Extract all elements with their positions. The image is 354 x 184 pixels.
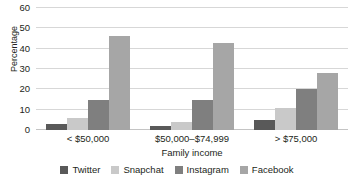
legend-label: Facebook	[252, 164, 294, 175]
bar-snapchat[interactable]	[171, 122, 192, 130]
bar-chart: Percentage 0102030405060 < $50,000$50,00…	[0, 0, 354, 184]
bar-snapchat[interactable]	[275, 108, 296, 130]
legend-swatch-icon	[111, 166, 119, 174]
legend-item-snapchat[interactable]: Snapchat	[111, 164, 163, 175]
legend-label: Instagram	[187, 164, 229, 175]
legend-swatch-icon	[240, 166, 248, 174]
bar-facebook[interactable]	[109, 36, 130, 130]
x-axis-category: $50,000–$74,999	[140, 133, 244, 144]
y-axis-tick: 50	[19, 24, 30, 34]
legend-label: Twitter	[72, 164, 100, 175]
bar-facebook[interactable]	[317, 73, 338, 130]
chart-legend: TwitterSnapchatInstagramFacebook	[0, 164, 354, 175]
x-axis-category-labels: < $50,000$50,000–$74,999> $75,000	[36, 133, 348, 144]
y-axis-tick: 60	[19, 3, 30, 13]
y-axis-tick: 30	[19, 64, 30, 74]
bar-twitter[interactable]	[46, 124, 67, 130]
bar-instagram[interactable]	[192, 100, 213, 131]
bar-snapchat[interactable]	[67, 118, 88, 130]
legend-item-facebook[interactable]: Facebook	[240, 164, 294, 175]
x-axis-category: > $75,000	[244, 133, 348, 144]
y-axis-tick: 10	[19, 105, 30, 115]
bar-twitter[interactable]	[150, 126, 171, 130]
legend-swatch-icon	[175, 166, 183, 174]
legend-label: Snapchat	[123, 164, 163, 175]
bar-facebook[interactable]	[213, 43, 234, 130]
y-axis-tick: 0	[25, 125, 30, 135]
bar-groups	[36, 8, 348, 130]
x-axis-title: Family income	[36, 147, 348, 158]
bar-instagram[interactable]	[88, 100, 109, 131]
y-axis-tick: 40	[19, 44, 30, 54]
plot-area	[36, 8, 348, 130]
legend-swatch-icon	[60, 166, 68, 174]
legend-item-instagram[interactable]: Instagram	[175, 164, 229, 175]
bar-group	[244, 8, 348, 130]
y-axis-tick-labels: 0102030405060	[0, 8, 34, 130]
y-axis-tick: 20	[19, 85, 30, 95]
bar-instagram[interactable]	[296, 89, 317, 130]
bar-group	[36, 8, 140, 130]
legend-item-twitter[interactable]: Twitter	[60, 164, 100, 175]
bar-group	[140, 8, 244, 130]
x-axis-category: < $50,000	[36, 133, 140, 144]
bar-twitter[interactable]	[254, 120, 275, 130]
